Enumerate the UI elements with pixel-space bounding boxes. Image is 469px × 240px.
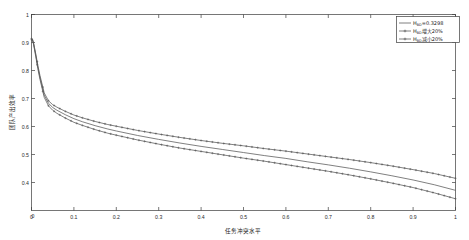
x-tick-label: 1: [454, 214, 457, 220]
y-axis-origin-label: 0: [32, 213, 35, 219]
x-tick-label: 0.2: [113, 214, 120, 220]
x-tick-label: 0.7: [325, 214, 332, 220]
y-tick-label: 0.9: [22, 40, 29, 46]
chart-legend: HBD=0.3298HBD增大20%HBD减小20%: [397, 17, 460, 44]
y-tick-label: 0.5: [22, 152, 29, 158]
y-tick-label: 0.7: [22, 96, 29, 102]
x-tick-label: 0.3: [155, 214, 162, 220]
y-tick-label: 1: [26, 12, 29, 18]
chart-figure: 00.10.20.30.40.50.60.70.80.91 0.40.50.60…: [0, 0, 469, 240]
x-tick-label: 0.8: [367, 214, 374, 220]
x-tick-label: 0.5: [240, 214, 247, 220]
y-tick-label: 0.4: [22, 180, 29, 186]
line-chart: 00.10.20.30.40.50.60.70.80.91 0.40.50.60…: [0, 0, 469, 240]
x-tick-label: 0.6: [282, 214, 289, 220]
x-tick-label: 0.4: [197, 214, 204, 220]
x-tick-label: 0.1: [70, 214, 77, 220]
y-axis-title: 团队产出效率: [8, 94, 16, 130]
x-tick-label: 0.9: [409, 214, 416, 220]
x-axis-title: 任务冲突水平: [225, 227, 261, 235]
y-tick-label: 0.8: [22, 68, 29, 74]
y-tick-label: 0.6: [22, 124, 29, 130]
